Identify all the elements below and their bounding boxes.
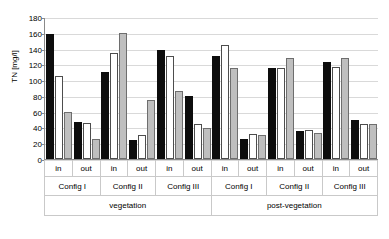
plot-area: 180160140120100806040200	[44, 18, 378, 160]
bar	[46, 34, 54, 159]
axis-label-config: Config II	[100, 177, 156, 196]
axis-label-inout: out	[127, 160, 155, 177]
axis-label-config: Config III	[155, 177, 211, 196]
bar	[369, 124, 377, 160]
y-tick-label: 180	[29, 14, 42, 23]
bar	[296, 131, 304, 159]
bar-group	[212, 18, 240, 159]
bar	[157, 50, 165, 159]
axis-label-phase: vegetation	[44, 196, 211, 216]
bar	[332, 67, 340, 159]
axis-label-inout: in	[266, 160, 294, 177]
bar	[119, 33, 127, 159]
y-tick-label: 160	[29, 29, 42, 38]
axis-label-inout: in	[211, 160, 239, 177]
bar-group	[156, 18, 184, 159]
bar	[230, 68, 238, 159]
axis-label-config: Config III	[322, 177, 379, 196]
bar-group	[128, 18, 156, 159]
axis-label-inout: in	[322, 160, 350, 177]
axis-label-inout: out	[238, 160, 266, 177]
bar	[323, 62, 331, 159]
bar-group	[45, 18, 73, 159]
y-tick-label: 40	[33, 124, 42, 133]
y-tick-label: 20	[33, 140, 42, 149]
bar-group	[350, 18, 378, 159]
bar	[221, 45, 229, 159]
bar-groups	[45, 18, 378, 159]
bar-group	[267, 18, 295, 159]
bar-chart: TN [mg/l] 180160140120100806040200 inout…	[0, 0, 389, 239]
bar	[74, 122, 82, 159]
y-axis-title: TN [mg/l]	[10, 27, 19, 107]
bar	[101, 72, 109, 159]
axis-tier-inout: inoutinoutinoutinoutinoutinout	[44, 160, 378, 177]
axis-label-inout: out	[294, 160, 322, 177]
axis-label-config: Config I	[44, 177, 100, 196]
x-axis-labels: inoutinoutinoutinoutinoutinout Config IC…	[44, 160, 378, 216]
bar	[194, 124, 202, 160]
bar	[277, 68, 285, 160]
bar	[212, 56, 220, 159]
bar-group	[239, 18, 267, 159]
bar	[305, 130, 313, 159]
axis-label-inout: in	[100, 160, 128, 177]
bar	[351, 120, 359, 159]
axis-label-inout: out	[183, 160, 211, 177]
bar-group	[323, 18, 351, 159]
bar	[286, 58, 294, 159]
bar	[110, 53, 118, 159]
bar	[268, 68, 276, 159]
bar-group	[184, 18, 212, 159]
axis-label-inout: in	[155, 160, 183, 177]
bar	[83, 123, 91, 159]
axis-label-config: Config I	[211, 177, 267, 196]
bar	[64, 112, 72, 159]
bar	[249, 134, 257, 159]
bar-group	[101, 18, 129, 159]
y-tick-label: 100	[29, 77, 42, 86]
bar	[55, 76, 63, 159]
bar-group	[73, 18, 101, 159]
bar	[147, 100, 155, 159]
axis-label-inout: out	[349, 160, 378, 177]
y-tick-label: 120	[29, 61, 42, 70]
bar	[92, 139, 100, 160]
bar	[185, 96, 193, 159]
bar	[203, 128, 211, 159]
bar	[138, 135, 146, 159]
y-tick-label: 0	[38, 156, 42, 165]
axis-tier-config: Config IConfig IIConfig IIIConfig IConfi…	[44, 177, 378, 196]
axis-tier-phase: vegetationpost-vegetation	[44, 196, 378, 216]
axis-label-inout: in	[44, 160, 72, 177]
bar	[166, 56, 174, 159]
bar-group	[295, 18, 323, 159]
bar	[314, 133, 322, 159]
axis-label-config: Config II	[266, 177, 322, 196]
bar	[240, 139, 248, 159]
bar	[175, 91, 183, 159]
y-tick-label: 80	[33, 92, 42, 101]
y-tick-label: 140	[29, 45, 42, 54]
bar	[129, 140, 137, 159]
y-tick-label: 60	[33, 108, 42, 117]
bar	[360, 124, 368, 160]
bar	[258, 135, 266, 159]
bar	[341, 58, 349, 159]
axis-label-phase: post-vegetation	[211, 196, 379, 216]
axis-label-inout: out	[72, 160, 100, 177]
